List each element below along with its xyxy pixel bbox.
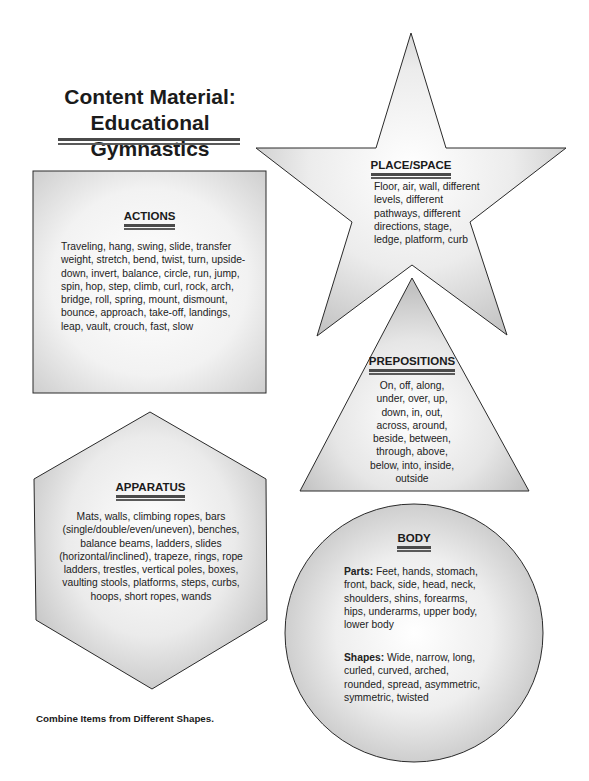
actions-heading: ACTIONS	[33, 210, 266, 230]
body-heading: BODY	[354, 532, 474, 552]
actions-text: Traveling, hang, swing, slide, transfer …	[61, 240, 247, 333]
body-shapes-text: Shapes: Wide, narrow, long, curled, curv…	[344, 651, 486, 704]
apparatus-text: Mats, walls, climbing ropes, bars (singl…	[58, 510, 244, 603]
parts-label: Parts:	[344, 566, 373, 577]
body-parts-text: Parts: Feet, hands, stomach, front, back…	[344, 565, 484, 631]
apparatus-heading: APPARATUS	[34, 481, 267, 501]
combine-note: Combine Items from Different Shapes.	[30, 713, 220, 724]
prepositions-text: On, off, along, under, over, up, down, i…	[365, 379, 459, 485]
prepositions-heading: PREPOSITIONS	[340, 355, 484, 375]
shapes-label: Shapes:	[344, 652, 384, 663]
title-line-1: Content Material:	[40, 84, 260, 110]
title-line-2: Educational Gymnastics	[40, 110, 260, 162]
place-space-heading: PLACE/SPACE	[340, 159, 482, 179]
page-title: Content Material: Educational Gymnastics	[40, 84, 260, 162]
title-underline	[58, 138, 240, 145]
place-space-text: Floor, air, wall, different levels, diff…	[374, 180, 482, 246]
